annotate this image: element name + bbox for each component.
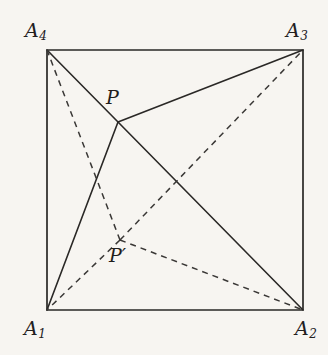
point-label-p: P	[106, 88, 119, 107]
vertex-label-a3-subscript: 3	[300, 29, 308, 43]
vertex-label-a1-base: A	[24, 317, 38, 339]
vertex-label-a3: A3	[286, 21, 308, 42]
vertex-label-a4-subscript: 4	[39, 29, 47, 43]
segment-pprime-a3	[120, 50, 303, 240]
vertex-label-a2-subscript: 2	[309, 327, 317, 341]
vertex-label-a4-base: A	[25, 19, 39, 41]
segment-p-a1	[47, 122, 118, 310]
vertex-label-a1-subscript: 1	[38, 327, 46, 341]
segment-p-a2	[118, 122, 303, 310]
segment-p-a3	[118, 50, 303, 122]
vertex-label-a4: A4	[25, 21, 47, 42]
segment-pprime-a2	[120, 240, 303, 310]
figure-canvas	[0, 0, 328, 355]
vertex-label-a1: A1	[24, 319, 46, 340]
vertex-label-a2: A2	[295, 319, 317, 340]
vertex-label-a3-base: A	[286, 19, 300, 41]
geometry-figure: A4 A3 A1 A2 P P′	[0, 0, 328, 355]
vertex-label-a2-base: A	[295, 317, 309, 339]
point-label-p-prime: P′	[109, 246, 126, 265]
